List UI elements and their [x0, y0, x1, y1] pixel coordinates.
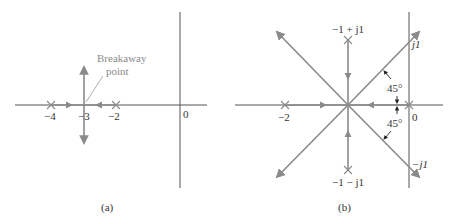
tick-label-neg-j1: −j1 [412, 158, 428, 170]
tick-label-neg3: −3 [78, 110, 90, 122]
arrow-up-icon [345, 130, 352, 137]
tick-label-neg2: −2 [108, 110, 120, 122]
angle-arrow-icon [384, 71, 391, 79]
caption-b: (b) [338, 201, 351, 214]
locus-branch-lower-right [348, 105, 419, 177]
tick-label-origin: 0 [183, 108, 189, 120]
panel-b: 45° 45° −1 + j1 −1 − j1 −2 0 j1 −j1 (b) [235, 12, 443, 214]
angle-arrow-icon [384, 131, 391, 139]
tick-label-j1: j1 [410, 38, 421, 50]
arrow-down-icon [345, 73, 352, 80]
arrow-right-icon [66, 102, 73, 109]
angle-label-lower: 45° [387, 117, 402, 129]
caption-a: (a) [101, 201, 114, 214]
tick-label-neg2: −2 [278, 111, 290, 123]
tick-label-neg4: −4 [44, 110, 56, 122]
panel-a: Breakaway point −4 −3 −2 0 (a) [15, 12, 207, 214]
arrow-left-icon [367, 102, 374, 109]
arrow-right-icon [320, 102, 327, 109]
breakaway-label-line2: point [106, 65, 129, 77]
angle-label-upper: 45° [387, 82, 402, 94]
breakaway-label-line1: Breakaway [97, 52, 147, 64]
annotation-leader-line [86, 76, 103, 102]
root-locus-figure: Breakaway point −4 −3 −2 0 (a) [0, 0, 450, 220]
tick-label-origin: 0 [412, 111, 418, 123]
arrow-left-icon [95, 102, 102, 109]
pole-label-upper: −1 + j1 [332, 23, 364, 35]
locus-branch-upper-right [348, 32, 419, 105]
locus-branch-upper-left [277, 32, 348, 105]
pole-label-lower: −1 − j1 [332, 176, 364, 188]
